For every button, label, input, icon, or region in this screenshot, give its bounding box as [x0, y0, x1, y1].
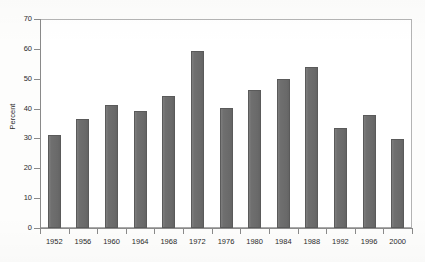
x-axis-tick	[154, 229, 155, 234]
y-axis-tick-label: 30	[12, 134, 32, 142]
y-axis-tick	[34, 168, 40, 169]
bar-1984	[277, 79, 290, 228]
y-axis-line	[40, 19, 41, 229]
bar-chart: Percent 010203040506070 1952195619601964…	[0, 0, 425, 262]
y-axis-tick	[34, 138, 40, 139]
x-axis-tick	[69, 229, 70, 234]
y-axis-tick	[34, 19, 40, 20]
y-axis-tick	[34, 109, 40, 110]
x-axis-tick	[183, 229, 184, 234]
x-axis-tick	[212, 229, 213, 234]
y-axis-tick	[34, 198, 40, 199]
bar-1992	[334, 128, 347, 228]
x-axis-tick	[326, 229, 327, 234]
x-axis-tick	[269, 229, 270, 234]
bar-1980	[248, 90, 261, 228]
y-axis-tick-label: 60	[12, 45, 32, 53]
x-axis-tick	[298, 229, 299, 234]
x-axis-tick	[40, 229, 41, 234]
bar-1964	[134, 111, 147, 228]
y-axis-tick-label: 10	[12, 194, 32, 202]
x-axis-line	[40, 228, 413, 229]
x-axis-tick	[412, 229, 413, 234]
x-axis-tick-label: 2000	[378, 237, 418, 246]
bar-1956	[76, 119, 89, 228]
bar-1960	[105, 105, 118, 228]
y-axis-tick	[34, 79, 40, 80]
y-axis-tick-label: 50	[12, 75, 32, 83]
bar-1996	[363, 115, 376, 228]
y-axis-tick-label: 0	[12, 224, 32, 232]
x-axis-tick	[240, 229, 241, 234]
x-axis-tick	[355, 229, 356, 234]
bar-1988	[305, 67, 318, 228]
y-axis-tick-label: 70	[12, 15, 32, 23]
bar-1952	[48, 135, 61, 228]
bar-1972	[191, 51, 204, 228]
bar-2000	[391, 139, 404, 228]
x-axis-tick	[383, 229, 384, 234]
x-axis-tick	[126, 229, 127, 234]
y-axis-tick	[34, 49, 40, 50]
y-axis-tick-label: 40	[12, 105, 32, 113]
bar-1976	[220, 108, 233, 228]
x-axis-tick	[97, 229, 98, 234]
y-axis-tick-label: 20	[12, 164, 32, 172]
bar-1968	[162, 96, 175, 228]
